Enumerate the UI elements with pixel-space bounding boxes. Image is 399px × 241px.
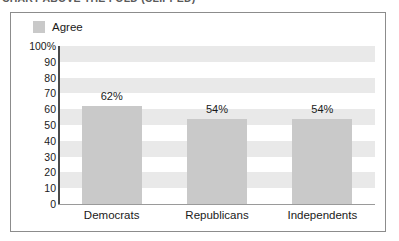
bar-series-agree: 62%54%54% [59,46,375,204]
legend-label-agree: Agree [52,21,83,33]
legend-swatch-agree [33,21,45,33]
y-axis-tick-10: 10 [44,183,56,193]
bar-value-label-independents: 54% [282,103,362,115]
y-axis-tick-70: 70 [44,88,56,98]
y-axis-tick-labels: 100%9080706050403020100 [23,46,56,204]
y-axis-tick-0: 0 [50,199,56,209]
x-axis-label-republicans: Republicans [164,209,269,221]
x-axis-category-labels: DemocratsRepublicansIndependents [59,209,375,227]
x-axis-label-democrats: Democrats [59,209,164,221]
y-axis-tick-40: 40 [44,136,56,146]
x-axis-label-independents: Independents [270,209,375,221]
chart-container: Agree 100%9080706050403020100 62%54%54% … [10,12,386,232]
y-axis-tick-80: 80 [44,73,56,83]
clipped-page-heading: CHART ABOVE THE FOLD (CLIPPED) [0,0,399,5]
x-axis-baseline [58,204,375,205]
bar-democrats[interactable] [82,106,142,204]
y-axis-tick-50: 50 [44,120,56,130]
y-axis-line [58,46,60,205]
bar-value-label-republicans: 54% [177,103,257,115]
y-axis-tick-60: 60 [44,104,56,114]
chart-legend: Agree [33,21,83,33]
y-axis-tick-90: 90 [44,57,56,67]
y-axis-tick-100: 100% [29,41,56,51]
bar-independents[interactable] [292,119,352,204]
y-axis-tick-20: 20 [44,167,56,177]
y-axis-tick-30: 30 [44,152,56,162]
bar-value-label-democrats: 62% [72,90,152,102]
plot-area: 62%54%54% [59,46,375,204]
bar-republicans[interactable] [187,119,247,204]
clipped-page-heading-text: CHART ABOVE THE FOLD (CLIPPED) [0,0,399,5]
